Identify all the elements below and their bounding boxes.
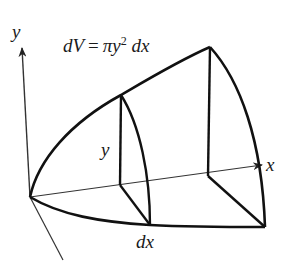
end-radius-diagonal [208, 176, 265, 227]
end-radius-line [208, 47, 210, 176]
y-axis-label: y [12, 22, 20, 41]
formula-differential: dx [132, 35, 150, 56]
formula-exponent: 2 [121, 34, 127, 48]
volume-formula: dV=πy2 dx [63, 35, 149, 55]
disk-radius-diagonal [120, 185, 150, 225]
formula-lhs: dV [63, 35, 84, 56]
formula-pi: π [103, 35, 113, 56]
thickness-label: dx [136, 232, 154, 251]
y-axis [22, 48, 30, 197]
diagram-canvas: dV=πy2 dx y x y dx [0, 0, 290, 269]
formula-equals: = [88, 35, 99, 56]
formula-var: y [112, 35, 120, 56]
radius-label: y [101, 140, 109, 159]
end-arc [210, 47, 265, 227]
x-axis-label: x [266, 155, 274, 174]
disk-radius-line [120, 95, 121, 185]
